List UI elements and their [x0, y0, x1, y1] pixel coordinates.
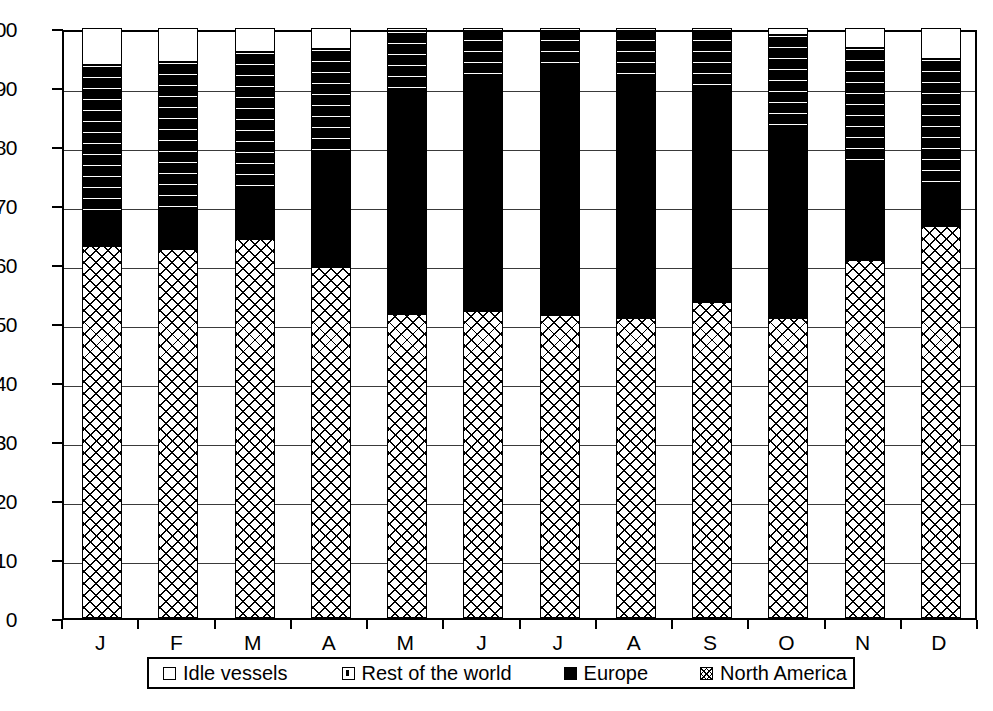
y-axis-tick-label: 60: [0, 255, 17, 276]
legend-item-europe: Europe: [564, 663, 649, 683]
bar-segment-idle-vessels: [768, 28, 808, 35]
x-axis-tick-label: S: [672, 632, 748, 654]
legend-item-north-america: North America: [700, 663, 847, 683]
x-axis-tick-mark: [671, 620, 673, 629]
x-axis-tick-mark: [519, 620, 521, 629]
bar-segment-europe: [387, 93, 427, 314]
y-axis-tick-label: 30: [0, 432, 17, 453]
bar-segment-rest-of-the-world: [235, 52, 275, 192]
y-axis-tick-label: 0: [0, 609, 17, 630]
bar-march: [235, 28, 275, 618]
y-axis-tick-label: 20: [0, 491, 17, 512]
y-axis-tick-label: 40: [0, 373, 17, 394]
bar-segment-rest-of-the-world: [311, 49, 351, 153]
bar-segment-europe: [463, 76, 503, 311]
gridline: [64, 445, 975, 446]
gridline: [64, 150, 975, 151]
bar-segment-rest-of-the-world: [921, 59, 961, 185]
bar-segment-rest-of-the-world: [845, 48, 885, 161]
bar-segment-rest-of-the-world: [540, 28, 580, 73]
bar-segment-europe: [921, 185, 961, 226]
bar-segment-europe: [616, 79, 656, 318]
legend-label: Europe: [584, 663, 649, 683]
bar-december: [921, 28, 961, 618]
bar-segment-north-america: [845, 260, 885, 618]
bar-segment-idle-vessels: [158, 28, 198, 62]
gridline: [64, 386, 975, 387]
bar-segment-north-america: [921, 226, 961, 618]
x-axis-tick-mark: [824, 620, 826, 629]
bar-october: [768, 28, 808, 618]
x-axis-tick-mark: [137, 620, 139, 629]
x-axis-tick-label: D: [901, 632, 977, 654]
y-axis-tick-label: 90: [0, 78, 17, 99]
gridline: [64, 209, 975, 210]
bar-segment-north-america: [82, 246, 122, 618]
bar-segment-rest-of-the-world: [387, 31, 427, 93]
crosshatch-square-icon: [700, 667, 713, 680]
y-axis-tick-label: 70: [0, 196, 17, 217]
gridline: [64, 504, 975, 505]
dashed-square-icon: [342, 667, 355, 680]
legend-label: North America: [720, 663, 847, 683]
stacked-bar-chart: 0102030405060708090100 JFMAMJJASOND Idle…: [0, 0, 993, 711]
x-axis-tick-label: F: [138, 632, 214, 654]
x-axis-tick-mark: [290, 620, 292, 629]
bar-july: [540, 28, 580, 618]
x-axis-tick-label: J: [443, 632, 519, 654]
bar-segment-idle-vessels: [845, 28, 885, 48]
x-axis-tick-mark: [900, 620, 902, 629]
x-axis-tick-mark: [61, 620, 63, 629]
bar-segment-rest-of-the-world: [616, 28, 656, 79]
bar-segment-north-america: [540, 315, 580, 618]
bar-segment-rest-of-the-world: [768, 35, 808, 126]
bar-segment-rest-of-the-world: [82, 65, 122, 217]
bar-segment-europe: [158, 218, 198, 249]
x-axis-tick-label: J: [62, 632, 138, 654]
gridline: [64, 327, 975, 328]
bar-segment-europe: [82, 217, 122, 247]
bar-segment-europe: [845, 161, 885, 260]
x-axis-tick-mark: [442, 620, 444, 629]
bar-segment-north-america: [158, 249, 198, 618]
bar-segment-north-america: [692, 302, 732, 618]
x-axis-tick-label: O: [748, 632, 824, 654]
bar-january: [82, 28, 122, 618]
legend-item-rest-of-the-world: Rest of the world: [342, 663, 512, 683]
x-axis-tick-label: N: [825, 632, 901, 654]
bar-may: [387, 28, 427, 618]
y-axis-tick-label: 100: [0, 19, 17, 40]
chart-legend: Idle vesselsRest of the worldEuropeNorth…: [147, 657, 855, 689]
bar-segment-rest-of-the-world: [463, 28, 503, 76]
x-axis-tick-mark: [366, 620, 368, 629]
bar-segment-idle-vessels: [311, 28, 351, 49]
x-axis-tick-label: A: [291, 632, 367, 654]
white-square-icon: [163, 667, 176, 680]
bar-april: [311, 28, 351, 618]
bar-segment-europe: [540, 73, 580, 315]
bar-segment-north-america: [311, 267, 351, 618]
y-axis-tick-label: 50: [0, 314, 17, 335]
figure-caption: [0, 697, 993, 711]
bar-segment-europe: [768, 126, 808, 318]
bar-segment-idle-vessels: [921, 28, 961, 59]
y-axis-tick-label: 80: [0, 137, 17, 158]
legend-item-idle-vessels: Idle vessels: [163, 663, 288, 683]
bar-segment-rest-of-the-world: [158, 62, 198, 218]
bar-segment-north-america: [616, 318, 656, 618]
x-axis-tick-label: M: [367, 632, 443, 654]
x-axis-tick-label: J: [520, 632, 596, 654]
black-square-icon: [564, 667, 577, 680]
bar-segment-idle-vessels: [387, 28, 427, 31]
bar-june: [463, 28, 503, 618]
bar-segment-europe: [692, 92, 732, 303]
bar-segment-north-america: [387, 314, 427, 618]
bar-segment-north-america: [463, 311, 503, 618]
legend-label: Idle vessels: [183, 663, 288, 683]
bar-segment-north-america: [768, 318, 808, 618]
y-axis-tick-label: 10: [0, 550, 17, 571]
x-axis-tick-label: A: [596, 632, 672, 654]
x-axis-tick-mark: [595, 620, 597, 629]
x-axis-tick-mark: [747, 620, 749, 629]
bar-segment-europe: [235, 192, 275, 239]
